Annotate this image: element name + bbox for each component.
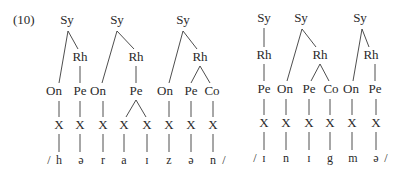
- node-on: On: [46, 83, 62, 98]
- segment: r: [101, 153, 105, 167]
- segment: ɪ: [145, 153, 148, 167]
- syllable-tree-1: Sy Rh On Pe X X: [46, 12, 88, 152]
- node-x: X: [347, 115, 357, 130]
- node-x: X: [75, 117, 85, 132]
- node-x: X: [142, 117, 152, 132]
- branch-line: [353, 29, 362, 81]
- syllable-tree-6: Sy Rh On Pe X X: [343, 10, 382, 150]
- node-co: Co: [204, 83, 219, 98]
- segment: ə: [188, 153, 193, 167]
- slash: /: [253, 151, 257, 165]
- node-pe: Pe: [74, 83, 87, 98]
- segment: ə: [78, 153, 83, 167]
- node-rh: Rh: [192, 49, 208, 64]
- branch-line: [126, 100, 136, 117]
- branch-line: [183, 31, 197, 49]
- node-x: X: [371, 115, 381, 130]
- node-sy: Sy: [60, 12, 74, 27]
- branch-line: [102, 31, 117, 83]
- branch-line: [362, 29, 369, 47]
- syllable-tree-4: Sy Rh Pe X: [256, 10, 272, 150]
- syllable-tree-2: Sy Rh On Pe X X X: [90, 12, 152, 152]
- branch-line: [59, 31, 68, 83]
- branch-line: [287, 29, 302, 81]
- node-x: X: [281, 115, 291, 130]
- node-x: X: [98, 117, 108, 132]
- node-rh: Rh: [128, 49, 144, 64]
- node-sy: Sy: [257, 10, 271, 25]
- node-co: Co: [323, 81, 338, 96]
- segment: ɪ: [307, 151, 310, 165]
- branch-line: [200, 66, 210, 83]
- node-x: X: [325, 115, 335, 130]
- node-x: X: [54, 117, 64, 132]
- node-on: On: [157, 83, 173, 98]
- node-on: On: [277, 81, 293, 96]
- syllable-structure-diagram: (10) Sy Rh On Pe X X Sy Rh On Pe X X X: [0, 0, 394, 190]
- node-rh: Rh: [312, 47, 328, 62]
- syllable-tree-3: Sy Rh On Pe Co X X X: [157, 12, 220, 152]
- node-x: X: [164, 117, 174, 132]
- branch-line: [311, 64, 320, 81]
- branch-line: [320, 64, 329, 81]
- segment: n: [283, 151, 289, 165]
- branch-line: [117, 31, 134, 49]
- segment: h: [56, 153, 62, 167]
- word-horizon: Sy Rh On Pe X X Sy Rh On Pe X X X: [46, 12, 226, 167]
- branch-line: [136, 100, 146, 117]
- node-pe: Pe: [303, 81, 316, 96]
- node-pe: Pe: [258, 81, 271, 96]
- segment: z: [166, 153, 171, 167]
- node-x: X: [119, 117, 129, 132]
- branch-line: [302, 29, 316, 47]
- segment: a: [121, 153, 127, 167]
- node-on: On: [343, 81, 359, 96]
- node-x: X: [208, 117, 218, 132]
- slash: /: [384, 151, 388, 165]
- segment-row-horizon: / h ə r a ɪ z ə n /: [47, 153, 226, 167]
- node-sy: Sy: [110, 12, 124, 27]
- branch-line: [191, 66, 200, 83]
- example-number: (10): [13, 12, 35, 27]
- node-pe: Pe: [130, 83, 143, 98]
- branch-line: [68, 31, 78, 49]
- node-rh: Rh: [256, 47, 272, 62]
- slash: /: [47, 153, 51, 167]
- node-x: X: [186, 117, 196, 132]
- node-pe: Pe: [369, 81, 382, 96]
- node-sy: Sy: [353, 10, 367, 25]
- node-sy: Sy: [176, 12, 190, 27]
- segment: n: [210, 153, 216, 167]
- node-sy: Sy: [294, 10, 308, 25]
- node-on: On: [90, 83, 106, 98]
- segment: g: [327, 151, 333, 165]
- node-x: X: [259, 115, 269, 130]
- node-rh: Rh: [363, 47, 379, 62]
- node-x: X: [304, 115, 314, 130]
- node-rh: Rh: [72, 49, 88, 64]
- word-enigma: Sy Rh Pe X Sy Rh On Pe Co X X X: [253, 10, 388, 165]
- node-pe: Pe: [185, 83, 198, 98]
- segment: m: [348, 151, 358, 165]
- slash: /: [222, 153, 226, 167]
- segment-row-enigma: / ɪ n ɪ g m ə /: [253, 151, 388, 165]
- segment: ɪ: [262, 151, 265, 165]
- segment: ə: [373, 151, 378, 165]
- branch-line: [169, 31, 183, 83]
- syllable-tree-5: Sy Rh On Pe Co X X X: [277, 10, 339, 150]
